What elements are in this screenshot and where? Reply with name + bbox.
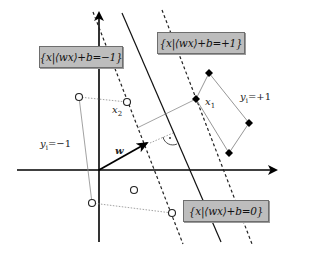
label-plus-text: {x|⟨wx⟩+b=+1} [159, 37, 242, 49]
label-y-minus: yi=−1 [40, 138, 71, 152]
label-zero-text: {x|⟨wx⟩+b=0} [189, 205, 264, 217]
label-x2: x2 [112, 104, 122, 118]
negative-point [76, 94, 83, 101]
label-box-minus: {x|⟨wx⟩+b=−1} [39, 46, 123, 68]
negative-point [169, 210, 176, 217]
support-vector-x2 [124, 99, 131, 106]
negative-point [131, 187, 138, 194]
label-box-zero: {x|⟨wx⟩+b=0} [183, 200, 269, 222]
negative-point [89, 200, 96, 207]
support-vector-x1 [192, 95, 200, 103]
margin-construction [137, 99, 196, 145]
label-x1: x1 [205, 96, 215, 110]
label-w: w [115, 145, 124, 156]
positive-point [225, 149, 233, 157]
label-box-plus: {x|⟨wx⟩+b=+1} [157, 32, 245, 54]
positive-class-hull [196, 73, 249, 153]
label-minus-text: {x|⟨wx⟩+b=−1} [39, 51, 122, 63]
label-y-plus: yi=+1 [240, 91, 271, 105]
